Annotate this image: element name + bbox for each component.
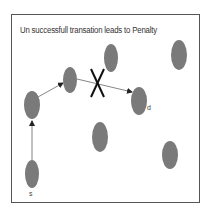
node-n5 — [92, 122, 108, 152]
node-n1 — [24, 91, 40, 119]
node-s — [25, 160, 39, 188]
node-n4 — [171, 40, 187, 70]
node-n2 — [63, 67, 77, 93]
source-label: s — [29, 190, 33, 197]
destination-label: d — [147, 104, 151, 111]
edge-n2-to-d-failed — [77, 79, 132, 92]
edge-n1-to-n2 — [38, 83, 63, 97]
network-graph — [0, 0, 211, 215]
node-n6 — [162, 141, 178, 169]
node-d — [131, 87, 147, 115]
node-n3 — [104, 44, 118, 72]
